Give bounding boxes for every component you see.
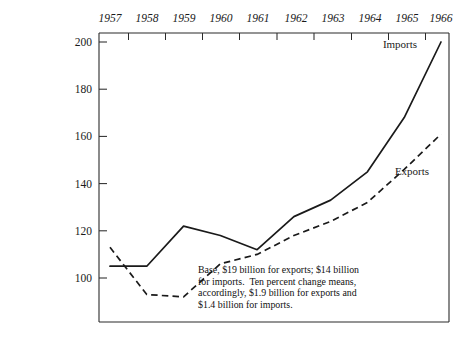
y-axis-ticks	[99, 42, 107, 278]
x-tick-label: 1961	[247, 12, 270, 24]
base-note-line: accordingly, $1.9 billion for exports an…	[198, 287, 440, 299]
y-axis-tick-labels: 100 120 140 160 180 200	[75, 36, 93, 284]
x-tick-label: 1957	[99, 12, 123, 24]
series-label-exports: Exports	[395, 165, 429, 177]
x-tick-label: 1966	[430, 12, 453, 24]
x-axis-tick-labels: 1957 1958 1959 1960 1961 1962 1963 1964 …	[99, 12, 453, 24]
x-tick-label: 1958	[136, 12, 159, 24]
y-tick-label: 200	[75, 36, 93, 48]
x-tick-label: 1962	[285, 12, 308, 24]
chart-container: 1957 1958 1959 1960 1961 1962 1963 1964 …	[0, 0, 455, 347]
y-tick-label: 100	[75, 272, 93, 284]
x-tick-label: 1963	[322, 12, 345, 24]
x-tick-label: 1964	[359, 12, 382, 24]
base-note-annotation: Base, $19 billion for exports; $14 billi…	[198, 264, 440, 310]
y-tick-label: 160	[75, 130, 93, 142]
x-tick-label: 1959	[173, 12, 196, 24]
series-label-imports: Imports	[383, 38, 417, 50]
base-note-line: $1.4 billion for imports.	[198, 299, 440, 311]
y-tick-label: 140	[75, 178, 93, 190]
x-axis-ticks	[129, 33, 426, 40]
base-note-line: for imports. Ten percent change means,	[198, 276, 440, 288]
series-line-imports	[110, 42, 441, 266]
x-tick-label: 1960	[210, 12, 233, 24]
x-tick-label: 1965	[396, 12, 419, 24]
y-tick-label: 120	[75, 225, 93, 237]
y-tick-label: 180	[75, 83, 93, 95]
base-note-line: Base, $19 billion for exports; $14 billi…	[198, 264, 440, 276]
